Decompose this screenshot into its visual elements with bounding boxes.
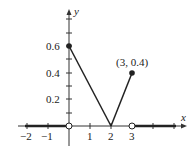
x-tick-label: 3 <box>129 130 135 142</box>
x-axis-label: x <box>180 111 186 123</box>
y-tick-label: 0.2 <box>46 93 60 105</box>
point-annotation: (3, 0.4) <box>116 56 148 69</box>
closed-point-3-0.4 <box>129 70 135 76</box>
y-tick-label: 0.6 <box>46 40 60 52</box>
closed-point-0-0.6 <box>66 43 72 49</box>
x-tick-label: −1 <box>41 130 53 142</box>
y-axis-arrow-icon <box>67 9 72 15</box>
y-tick-label: 0.4 <box>46 67 60 79</box>
x-axis-arrow-icon <box>181 124 187 129</box>
decreasing-segment <box>69 46 111 126</box>
x-tick-label: −2 <box>20 130 32 142</box>
chart: x −2 −1 1 2 3 y 0.6 0.4 0.2 (3, 0.4) <box>0 0 194 149</box>
y-axis-label: y <box>73 5 79 17</box>
x-tick-label: 1 <box>87 130 93 142</box>
increasing-segment <box>111 73 132 126</box>
open-point-3-0 <box>129 123 135 129</box>
x-tick-label: 2 <box>108 130 114 142</box>
open-point-0-0 <box>66 123 72 129</box>
function-graph: (3, 0.4) <box>25 43 176 129</box>
